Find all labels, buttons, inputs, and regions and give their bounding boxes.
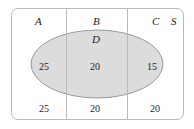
set-label-a: A (35, 16, 42, 27)
count-b-not-d: 20 (90, 104, 100, 114)
set-label-c: C (152, 16, 159, 27)
count-c-and-d: 15 (147, 62, 157, 72)
set-label-s-universe: S (171, 16, 177, 27)
count-a-not-d: 25 (39, 104, 49, 114)
count-c-not-d: 20 (150, 104, 160, 114)
set-diagram: A B C S D 25 20 15 25 20 20 (0, 0, 194, 129)
count-b-and-d: 20 (90, 62, 100, 72)
set-label-b: B (93, 16, 100, 27)
count-a-and-d: 25 (39, 62, 49, 72)
set-label-d: D (92, 34, 100, 45)
